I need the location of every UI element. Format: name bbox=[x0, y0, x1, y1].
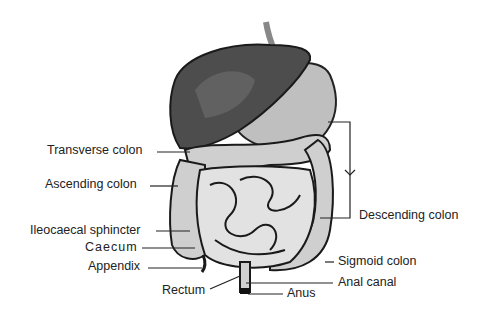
label-anus: Anus bbox=[287, 286, 316, 300]
label-descending-colon: Descending colon bbox=[359, 208, 458, 222]
label-ascending-colon: Ascending colon bbox=[45, 177, 137, 191]
label-caecum: Caecum bbox=[85, 240, 138, 254]
label-anal-canal: Anal canal bbox=[338, 275, 396, 289]
rectum bbox=[240, 262, 250, 292]
label-ileocaecal-sphincter: Ileocaecal sphincter bbox=[30, 223, 140, 237]
label-appendix: Appendix bbox=[88, 259, 140, 273]
appendix bbox=[202, 255, 205, 272]
small-intestine bbox=[197, 166, 315, 267]
label-rectum: Rectum bbox=[162, 283, 205, 297]
label-sigmoid-colon: Sigmoid colon bbox=[338, 254, 417, 268]
label-transverse-colon: Transverse colon bbox=[47, 143, 142, 157]
